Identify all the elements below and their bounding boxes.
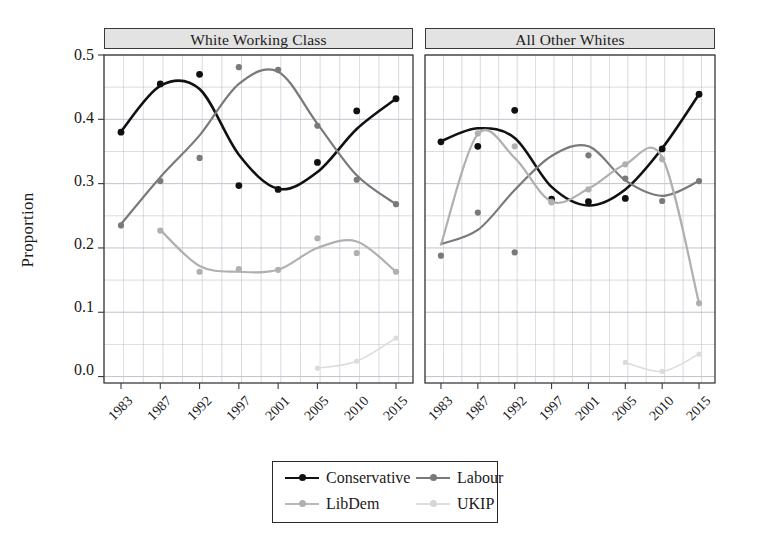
data-point-libdem	[475, 130, 481, 136]
data-point-libdem	[275, 267, 281, 273]
data-point-labour	[314, 123, 320, 129]
data-point-conservative	[118, 129, 125, 136]
data-point-labour	[585, 152, 591, 158]
panel-grid	[104, 55, 413, 383]
legend-item-libdem[interactable]: LibDem	[285, 495, 379, 513]
data-point-conservative	[511, 107, 518, 114]
legend-item-labour[interactable]: Labour	[416, 469, 503, 487]
series-line-labour	[121, 69, 396, 224]
data-point-libdem	[622, 161, 628, 167]
data-point-conservative	[659, 145, 666, 152]
data-point-labour	[512, 249, 518, 255]
data-point-conservative	[157, 81, 164, 88]
panel-grid	[425, 55, 715, 383]
data-point-conservative	[275, 186, 282, 193]
data-point-ukip	[623, 360, 628, 365]
legend-label-conservative: Conservative	[326, 469, 410, 487]
data-point-labour	[438, 253, 444, 259]
legend-swatch-conservative	[285, 472, 319, 484]
data-point-conservative	[393, 95, 400, 102]
data-point-ukip	[696, 351, 701, 356]
data-point-libdem	[512, 143, 518, 149]
data-point-labour	[196, 155, 202, 161]
data-point-labour	[622, 175, 628, 181]
chart-figure: Proportion 0.5 0.4 0.3 0.2 0.1 0.0 White…	[0, 0, 760, 559]
data-point-labour	[475, 209, 481, 215]
data-point-labour	[275, 67, 281, 73]
data-point-conservative	[585, 198, 592, 205]
legend-item-ukip[interactable]: UKIP	[416, 495, 494, 513]
legend-swatch-labour	[416, 472, 450, 484]
data-point-labour	[659, 198, 665, 204]
data-point-libdem	[196, 269, 202, 275]
legend-swatch-ukip	[416, 498, 450, 510]
data-point-conservative	[696, 91, 703, 98]
series-line-libdem	[441, 130, 699, 303]
series-line-libdem	[160, 230, 396, 273]
data-point-ukip	[315, 366, 320, 371]
data-point-conservative	[196, 71, 203, 78]
data-point-libdem	[585, 186, 591, 192]
data-point-labour	[393, 201, 399, 207]
data-point-labour	[354, 177, 360, 183]
data-point-conservative	[353, 108, 360, 115]
legend-label-ukip: UKIP	[457, 495, 494, 513]
data-point-libdem	[354, 250, 360, 256]
data-point-libdem	[314, 235, 320, 241]
data-point-ukip	[660, 369, 665, 374]
data-point-conservative	[314, 159, 321, 166]
data-point-labour	[118, 222, 124, 228]
legend-label-labour: Labour	[457, 469, 503, 487]
data-point-ukip	[393, 335, 398, 340]
data-point-labour	[157, 178, 163, 184]
data-point-libdem	[393, 269, 399, 275]
data-point-labour	[236, 64, 242, 70]
data-point-libdem	[157, 227, 163, 233]
data-point-ukip	[354, 359, 359, 364]
data-point-libdem	[548, 199, 554, 205]
data-point-conservative	[622, 195, 629, 202]
legend-label-libdem: LibDem	[326, 495, 379, 513]
data-point-conservative	[438, 138, 445, 145]
data-point-conservative	[235, 182, 242, 189]
data-point-conservative	[474, 143, 481, 150]
data-point-libdem	[696, 300, 702, 306]
legend-swatch-libdem	[285, 498, 319, 510]
data-point-libdem	[236, 266, 242, 272]
data-point-libdem	[659, 156, 665, 162]
legend-item-conservative[interactable]: Conservative	[285, 469, 410, 487]
data-point-labour	[696, 178, 702, 184]
chart-legend: Conservative Labour LibDem UKIP	[272, 461, 498, 523]
